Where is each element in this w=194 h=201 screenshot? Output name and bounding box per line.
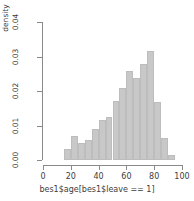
x-tick-label: 60 xyxy=(113,172,139,181)
y-tick-mark xyxy=(37,126,42,127)
histogram-bar xyxy=(64,149,71,160)
x-tick-label: 40 xyxy=(86,172,112,181)
histogram-bar xyxy=(106,117,113,160)
x-tick-mark xyxy=(126,165,127,170)
x-tick-label: 100 xyxy=(169,172,194,181)
histogram-bar xyxy=(78,143,85,160)
x-tick-mark xyxy=(99,165,100,170)
x-tick-mark xyxy=(182,165,183,170)
x-tick-mark xyxy=(43,165,44,170)
y-tick-label: 0.04 xyxy=(12,2,20,42)
y-axis-line xyxy=(42,22,43,160)
histogram-bar xyxy=(119,88,126,160)
y-tick-label: 0.02 xyxy=(12,71,20,111)
x-axis-label: bes1$age[bes1$leave == 1] xyxy=(0,185,194,194)
histogram-bar xyxy=(71,136,78,160)
histogram-bar xyxy=(140,64,147,160)
x-tick-label: 20 xyxy=(58,172,84,181)
histogram-bar xyxy=(92,129,99,160)
y-tick-mark xyxy=(37,22,42,23)
y-axis-label: density xyxy=(2,0,10,41)
x-tick-mark xyxy=(154,165,155,170)
y-tick-mark xyxy=(37,91,42,92)
histogram-bar xyxy=(161,138,168,160)
histogram-bar xyxy=(133,78,140,160)
histogram-bar xyxy=(113,101,120,160)
histogram-bar xyxy=(126,71,133,160)
histogram-bar xyxy=(154,102,161,160)
y-tick-label: 0.01 xyxy=(12,106,20,146)
histogram-bar xyxy=(85,140,92,160)
histogram-bars xyxy=(0,0,194,201)
y-tick-mark xyxy=(37,160,42,161)
histogram-bar xyxy=(168,155,175,160)
histogram-bar xyxy=(99,120,106,160)
histogram-plot: 0.000.010.020.030.04 density 02040608010… xyxy=(0,0,194,201)
x-axis-line xyxy=(43,165,182,166)
y-tick-label: 0.00 xyxy=(12,140,20,180)
y-tick-label: 0.03 xyxy=(12,37,20,77)
histogram-bar xyxy=(147,51,154,160)
y-tick-mark xyxy=(37,57,42,58)
x-tick-label: 80 xyxy=(141,172,167,181)
x-tick-label: 0 xyxy=(30,172,56,181)
x-tick-mark xyxy=(71,165,72,170)
